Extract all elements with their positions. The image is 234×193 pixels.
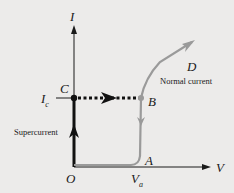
normal-return-path <box>74 98 141 165</box>
switching-arrow-icon <box>101 92 117 104</box>
y-axis-label: I <box>70 10 74 23</box>
point-d-label: D <box>187 60 196 73</box>
supercurrent-annotation: Supercurrent <box>14 128 58 137</box>
va-subscript: a <box>139 180 143 189</box>
normal-current-path <box>141 42 192 98</box>
point-c-label: C <box>60 82 69 95</box>
critical-current-label: Ic <box>41 92 49 109</box>
point-b-dot <box>138 95 144 101</box>
x-axis-label: V <box>216 161 224 174</box>
ic-subscript: c <box>45 100 49 109</box>
point-b-label: B <box>148 95 156 108</box>
voltage-a-label: Va <box>131 172 143 189</box>
normal-current-annotation: Normal current <box>160 77 212 86</box>
origin-label: O <box>66 172 75 185</box>
point-c-dot <box>71 95 77 101</box>
point-a-label: A <box>145 154 153 167</box>
iv-diagram-canvas <box>0 0 234 193</box>
y-axis-arrow-icon <box>71 25 77 34</box>
x-axis-arrow-icon <box>202 164 211 170</box>
va-symbol: V <box>131 171 139 186</box>
